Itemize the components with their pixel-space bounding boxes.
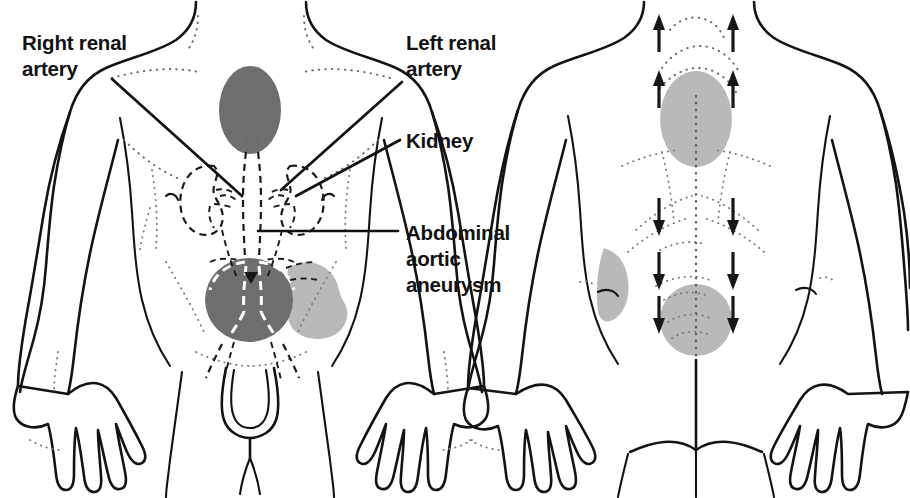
epigastric-shading — [219, 66, 281, 154]
label-kidney: Kidney — [406, 129, 474, 152]
label-left-renal-artery-line1: Left renal — [406, 31, 496, 54]
diagram-svg: Right renal artery Left renal artery Kid… — [0, 0, 910, 498]
label-aaa-line1: Abdominal — [406, 221, 510, 244]
label-right-renal-artery-line2: artery — [22, 57, 79, 80]
anatomical-diagram-canvas: Right renal artery Left renal artery Kid… — [0, 0, 910, 498]
label-aaa-line3: aneurysm — [406, 273, 501, 296]
label-kidney-line1: Kidney — [406, 129, 474, 152]
label-right-renal-artery-line1: Right renal — [22, 31, 127, 54]
label-aaa-line2: aortic — [406, 247, 461, 270]
label-left-renal-artery-line2: artery — [406, 57, 463, 80]
